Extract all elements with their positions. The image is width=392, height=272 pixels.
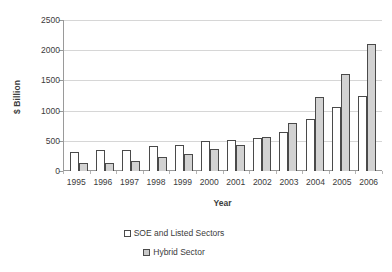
x-axis-tick: [355, 171, 356, 174]
x-axis-tick: [196, 171, 197, 174]
x-axis-tick: [302, 171, 303, 174]
x-axis-tick-label: 1995: [63, 177, 90, 189]
bar[interactable]: [131, 161, 140, 171]
bar-group: [118, 20, 144, 171]
bar-group: [197, 20, 223, 171]
bar[interactable]: [236, 145, 245, 171]
bar[interactable]: [122, 150, 131, 171]
x-axis-tick-label: 2002: [249, 177, 276, 189]
x-axis-tick-label: 1997: [116, 177, 143, 189]
bar[interactable]: [262, 137, 271, 171]
bar-group: [275, 20, 301, 171]
x-axis-tick: [223, 171, 224, 174]
bar[interactable]: [315, 97, 324, 171]
x-axis-tick-label: 2000: [196, 177, 223, 189]
legend-item-hybrid-sector[interactable]: Hybrid Sector: [0, 243, 392, 262]
legend-label: SOE and Listed Sectors: [134, 229, 225, 238]
y-axis-title: $ Billion: [12, 61, 26, 133]
bar-chart-figure: $ Billion 25002000150010005000 199519961…: [0, 0, 392, 272]
x-axis-tick: [143, 171, 144, 174]
x-axis-tick-label: 2003: [276, 177, 303, 189]
x-axis-tick-label: 1999: [169, 177, 196, 189]
y-axis-tick-label: 500: [20, 137, 60, 146]
x-axis-tick: [276, 171, 277, 174]
x-axis-tick: [116, 171, 117, 174]
bar[interactable]: [210, 149, 219, 171]
y-axis-tick-label: 1500: [20, 76, 60, 85]
x-axis-ticks: [63, 171, 382, 175]
x-axis-tick: [329, 171, 330, 174]
legend-swatch-icon: [143, 249, 150, 256]
chart-legend: SOE and Listed Sectors Hybrid Sector: [0, 224, 392, 262]
bar[interactable]: [158, 157, 167, 171]
bar-groups: [63, 20, 382, 171]
y-axis-tick-label: 1000: [20, 107, 60, 116]
x-axis-tick-label: 2001: [222, 177, 249, 189]
legend-swatch-icon: [124, 230, 131, 237]
bar-group: [66, 20, 92, 171]
bar[interactable]: [332, 107, 341, 171]
bar[interactable]: [306, 119, 315, 171]
y-axis-tick-label: 2500: [20, 16, 60, 25]
plot-area: [63, 20, 382, 171]
x-axis-tick-label: 2004: [302, 177, 329, 189]
bar[interactable]: [253, 138, 262, 171]
x-axis-tick-labels: 1995199619971998199920002001200220032004…: [63, 177, 382, 189]
x-axis-tick: [63, 171, 64, 174]
bar[interactable]: [149, 146, 158, 171]
bar-group: [354, 20, 380, 171]
bar-group: [171, 20, 197, 171]
x-axis-tick: [90, 171, 91, 174]
legend-item-soe-and-listed-sectors[interactable]: SOE and Listed Sectors: [0, 224, 392, 243]
bar[interactable]: [341, 74, 350, 171]
bar-group: [302, 20, 328, 171]
bar-group: [328, 20, 354, 171]
x-axis-tick-label: 1996: [90, 177, 117, 189]
bar[interactable]: [184, 154, 193, 171]
bar-group: [92, 20, 118, 171]
x-axis-title: Year: [63, 198, 382, 208]
x-axis-tick-label: 2005: [329, 177, 356, 189]
x-axis-tick: [249, 171, 250, 174]
bar[interactable]: [105, 163, 114, 171]
bar[interactable]: [175, 145, 184, 171]
bar[interactable]: [288, 123, 297, 171]
bar[interactable]: [227, 140, 236, 171]
bar[interactable]: [358, 96, 367, 171]
bar[interactable]: [70, 152, 79, 171]
x-axis-tick-label: 1998: [143, 177, 170, 189]
bar-group: [249, 20, 275, 171]
bar[interactable]: [201, 141, 210, 171]
x-axis-tick: [382, 171, 383, 174]
y-axis-tick-label: 2000: [20, 46, 60, 55]
x-axis-tick: [169, 171, 170, 174]
bar[interactable]: [79, 163, 88, 171]
x-axis-tick-label: 2006: [355, 177, 382, 189]
y-axis-tick-label: 0: [20, 167, 60, 176]
bar-group: [223, 20, 249, 171]
bar-group: [145, 20, 171, 171]
bar[interactable]: [279, 132, 288, 171]
bar[interactable]: [96, 150, 105, 171]
bar[interactable]: [367, 44, 376, 171]
legend-label: Hybrid Sector: [153, 248, 205, 257]
